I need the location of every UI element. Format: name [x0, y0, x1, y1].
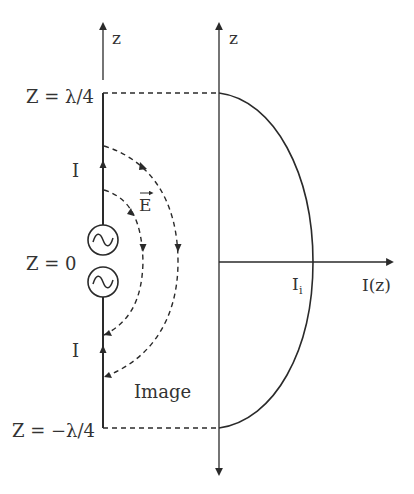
generator-icon: [88, 225, 118, 297]
antenna-diagram: z E I I Image Z = λ/4 Z: [0, 0, 414, 494]
bottom-level-label: Z = −λ/4: [12, 420, 95, 441]
current-distribution-curve: [219, 93, 313, 428]
center-level-label: Z = 0: [26, 253, 76, 274]
svg-text:I: I: [292, 274, 299, 294]
svg-text:i: i: [299, 284, 303, 297]
svg-text:E: E: [139, 195, 151, 215]
current-arrow-upper-icon: [100, 160, 107, 168]
top-level-label: Z = λ/4: [26, 86, 94, 107]
image-label: Image: [134, 381, 191, 402]
left-axis-label: z: [112, 28, 121, 48]
field-label: E: [139, 193, 151, 215]
current-label-upper: I: [72, 160, 79, 181]
e-field-lines: [104, 146, 178, 377]
right-axis-label: z: [229, 28, 238, 48]
peak-current-label: I i: [292, 274, 303, 297]
current-label-lower: I: [72, 340, 79, 361]
current-arrow-lower-icon: [100, 345, 107, 353]
horizontal-axis-label: I(z): [362, 275, 391, 295]
